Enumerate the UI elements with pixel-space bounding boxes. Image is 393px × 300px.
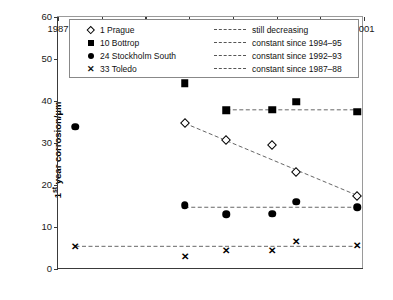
legend-line-label: constant since 1987–88 [250,64,342,74]
x-tick-mark [364,17,365,21]
legend-series-item: 1 Prague [84,23,212,36]
trend-line [185,123,358,195]
y-tick-mark [54,269,58,270]
data-point-marker [268,106,276,114]
y-tick-label: 40 [41,96,52,106]
y-tick-label: 50 [41,54,52,64]
legend-series-item: 24 Stockholm South [84,49,212,62]
y-tick-label: 0 [47,264,52,274]
x-tick-mark [58,17,59,21]
legend-dashed-line-icon [214,42,246,43]
data-point-marker [181,201,189,209]
legend-filled-square-icon [84,40,98,46]
y-tick-label: 60 [41,12,52,22]
legend-dashed-line-icon [214,68,246,69]
data-point-marker [292,98,300,106]
legend-line-label: still decreasing [250,25,308,35]
legend-series-label: 24 Stockholm South [98,51,176,61]
legend-lines-column: still decreasingconstant since 1994–95co… [212,23,358,77]
data-point-marker [354,204,362,212]
data-point-marker [268,210,276,218]
legend-cross-icon: ✕ [84,65,98,73]
legend-open-diamond-icon [84,27,98,33]
data-point-marker [354,108,362,116]
legend-line-item: constant since 1994–95 [214,36,358,49]
chart-legend: 1 Prague10 Bottrop24 Stockholm South✕33 … [69,19,359,78]
legend-series-label: 10 Bottrop [98,38,139,48]
y-tick-mark [54,59,58,60]
legend-series-item: 10 Bottrop [84,36,212,49]
corrosion-scatter-chart: 1st year corrosion/µm 0102030405060 1987… [0,0,393,300]
legend-line-item: constant since 1987–88 [214,62,358,75]
y-tick-label: 30 [41,138,52,148]
y-tick-mark [54,185,58,186]
legend-line-label: constant since 1992–93 [250,51,342,61]
legend-line-item: constant since 1992–93 [214,49,358,62]
legend-series-item: ✕33 Toledo [84,62,212,75]
data-point-marker: ✕ [353,241,362,250]
data-point-marker: ✕ [292,236,301,245]
data-point-marker: ✕ [222,246,231,255]
y-tick-mark [54,101,58,102]
legend-series-label: 33 Toledo [98,64,137,74]
x-tick-label: 1987 [47,24,68,34]
data-point-marker [223,106,231,114]
data-point-marker: ✕ [268,246,277,255]
legend-series-label: 1 Prague [98,25,135,35]
data-point-marker [181,80,189,88]
legend-dashed-line-icon [214,29,246,30]
y-tick-label: 10 [41,222,52,232]
y-tick-label: 20 [41,180,52,190]
legend-dashed-line-icon [214,55,246,56]
data-point-marker: ✕ [180,251,189,260]
legend-line-label: constant since 1994–95 [250,38,342,48]
data-point-marker: ✕ [71,241,80,250]
data-point-marker [223,211,231,219]
legend-series-column: 1 Prague10 Bottrop24 Stockholm South✕33 … [70,23,212,77]
data-point-marker [292,198,300,206]
data-point-marker [72,123,80,131]
legend-filled-circle-icon [84,53,98,59]
y-tick-mark [54,143,58,144]
legend-line-item: still decreasing [214,23,358,36]
y-tick-mark [54,227,58,228]
